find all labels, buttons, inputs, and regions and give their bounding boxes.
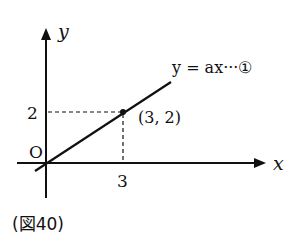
x-axis-arrow-icon	[254, 158, 266, 168]
equation-label: y = ax···①	[171, 58, 252, 77]
coordinate-diagram: y x O 2 3 (3, 2) y = ax···①	[0, 0, 302, 245]
point-3-2	[120, 109, 126, 115]
tick-y-2: 2	[27, 103, 38, 123]
figure-caption: (図40)	[12, 210, 64, 235]
y-axis-label: y	[57, 20, 69, 42]
y-axis-arrow-icon	[41, 28, 51, 40]
tick-x-3: 3	[117, 171, 128, 191]
origin-label: O	[29, 142, 43, 162]
point-label: (3, 2)	[138, 108, 181, 127]
x-axis-label: x	[273, 152, 284, 174]
